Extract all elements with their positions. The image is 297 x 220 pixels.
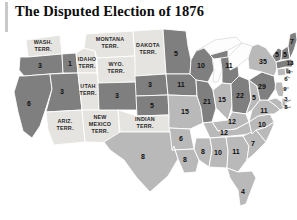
votes-kentucky: 12 xyxy=(228,118,236,125)
label-montana-territory-line2: TERR. xyxy=(101,43,118,49)
votes-pennsylvania: 29 xyxy=(258,83,266,90)
votes-south-carolina: 7 xyxy=(251,140,255,147)
map-container: 3 1 6 3 3 3 5 8 5 11 15 6 8 10 21 11 15 … xyxy=(0,26,297,220)
votes-ohio: 22 xyxy=(236,92,244,99)
votes-new-hampshire: 5 xyxy=(283,51,287,58)
label-wyoming-territory-line1: WYO. xyxy=(108,61,123,67)
votes-nebraska: 3 xyxy=(148,81,152,88)
votes-nevada: 3 xyxy=(60,88,64,95)
votes-maryland: 8 xyxy=(284,104,288,110)
label-new-mexico-territory-line2: MEXICO xyxy=(89,121,111,127)
label-washington-territory-line2: TERR. xyxy=(34,46,51,52)
figure-container: The Disputed Election of 1876 xyxy=(0,0,297,220)
votes-mississippi: 8 xyxy=(201,148,205,155)
votes-new-jersey: 9 xyxy=(283,86,287,92)
votes-illinois: 21 xyxy=(203,98,211,105)
label-utah-territory-line2: TERR. xyxy=(79,90,96,96)
votes-maine: 7 xyxy=(290,38,294,45)
votes-michigan: 11 xyxy=(225,62,233,69)
label-idaho-territory-line2: TERR. xyxy=(78,63,95,69)
votes-north-carolina: 10 xyxy=(258,121,266,128)
votes-colorado: 3 xyxy=(115,92,119,99)
state-california[interactable] xyxy=(14,74,52,138)
votes-oregon: 3 xyxy=(38,62,42,69)
votes-west-virginia: 5 xyxy=(252,94,256,101)
votes-wisconsin: 10 xyxy=(197,62,205,69)
votes-georgia: 11 xyxy=(232,148,240,155)
label-washington-territory-line1: WASH. xyxy=(34,39,53,45)
votes-indiana: 15 xyxy=(218,96,226,103)
page-title: The Disputed Election of 1876 xyxy=(15,3,204,20)
label-indian-territory-line1: INDIAN xyxy=(135,116,155,122)
votes-new-york: 35 xyxy=(259,58,267,65)
label-montana-territory-line1: MONTANA xyxy=(96,36,125,42)
votes-vermont: 5 xyxy=(275,51,279,58)
votes-alabama: 10 xyxy=(214,149,222,156)
votes-california: 6 xyxy=(27,100,31,107)
votes-connecticut: 6 xyxy=(284,76,288,82)
state-nevada[interactable] xyxy=(46,73,82,112)
label-idaho-territory-line1: IDAHO xyxy=(78,56,96,62)
label-utah-territory-line1: UTAH xyxy=(80,83,95,89)
votes-strip-1: 1 xyxy=(68,60,72,67)
votes-virginia: 11 xyxy=(260,107,268,114)
votes-massachusetts: 13 xyxy=(287,60,294,66)
votes-minnesota: 5 xyxy=(174,50,178,57)
label-new-mexico-territory-line3: TERR. xyxy=(91,128,108,134)
votes-louisiana: 8 xyxy=(183,156,187,163)
votes-kansas: 5 xyxy=(150,102,154,109)
state-texas[interactable] xyxy=(104,132,178,192)
votes-tennessee: 12 xyxy=(220,129,228,136)
votes-missouri: 15 xyxy=(181,108,189,115)
votes-delaware: 3 xyxy=(284,96,288,102)
votes-florida: 4 xyxy=(241,188,245,195)
votes-arkansas: 6 xyxy=(179,135,183,142)
state-maine[interactable] xyxy=(288,32,297,59)
votes-texas: 8 xyxy=(141,153,145,160)
label-indian-territory-line2: TERR. xyxy=(136,123,153,129)
votes-iowa: 11 xyxy=(177,81,185,88)
label-new-mexico-territory-line1: NEW xyxy=(93,114,107,120)
label-wyoming-territory-line2: TERR. xyxy=(107,68,124,74)
label-dakota-territory-line1: DAKOTA xyxy=(136,42,160,48)
label-arizona-territory-line2: TERR. xyxy=(56,125,73,131)
united-states-map: 3 1 6 3 3 3 5 8 5 11 15 6 8 10 21 11 15 … xyxy=(0,26,297,220)
label-arizona-territory-line1: ARIZ. xyxy=(57,118,72,124)
label-dakota-territory-line2: TERR. xyxy=(139,49,156,55)
